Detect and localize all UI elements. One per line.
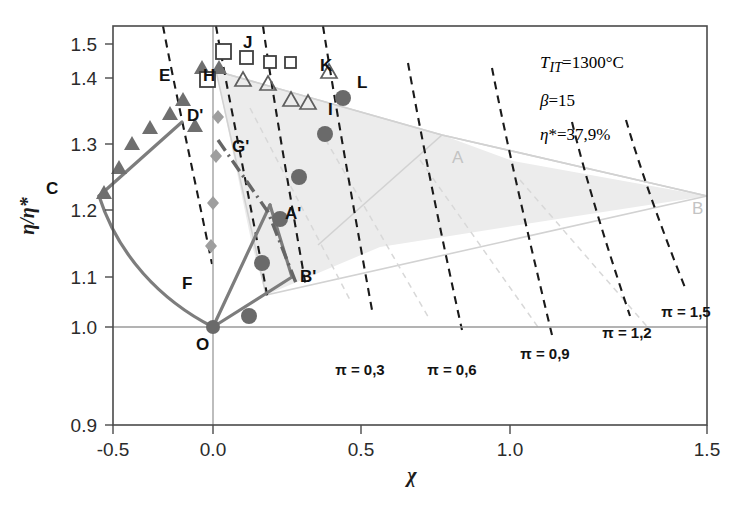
ytick-label: 1.0 (71, 317, 97, 338)
label-A-prime: A' (285, 204, 301, 223)
efficiency-chart-figure: 0.9 1.0 1.1 1.2 1.3 1.4 1.5 -0.5 0.0 0.5… (0, 0, 742, 508)
label-I: I (328, 100, 333, 119)
xtick-label: -0.5 (97, 439, 130, 460)
marker-circle-filled (291, 169, 307, 185)
parameter-annotations: TIT=1300°C β=15 η*=37,9% (540, 46, 624, 152)
label-F: F (182, 274, 192, 293)
label-J: J (243, 33, 252, 52)
y-axis-title: η/η* (16, 196, 39, 235)
xtick-label: 0.5 (348, 439, 374, 460)
label-K: K (320, 56, 333, 75)
annotation-turbine-inlet-temperature: TIT=1300°C (540, 46, 624, 84)
pi-label: π = 1,5 (661, 303, 710, 320)
ytick-label: 1.4 (71, 68, 98, 89)
marker-square-open (240, 51, 253, 64)
ytick-label: 1.1 (71, 267, 97, 288)
label-B-prime: B' (300, 267, 316, 286)
label-C: C (46, 179, 58, 198)
ytick-label: 0.9 (71, 415, 97, 436)
label-D-prime: D' (187, 106, 203, 125)
label-B: B (692, 199, 703, 218)
label-H: H (203, 66, 215, 85)
ytick-label: 1.5 (71, 34, 97, 55)
pi-label: π = 0,3 (335, 361, 384, 378)
marker-circle-filled (317, 126, 333, 142)
xtick-label: 1.5 (694, 439, 720, 460)
ytick-label: 1.3 (71, 134, 97, 155)
pi-label: π = 0,6 (427, 361, 476, 378)
label-O: O (196, 335, 209, 354)
pi-label: π = 0,9 (520, 345, 569, 362)
annotation-pressure-ratio: β=15 (540, 84, 624, 118)
marker-origin-O (206, 320, 220, 334)
chart-svg: 0.9 1.0 1.1 1.2 1.3 1.4 1.5 -0.5 0.0 0.5… (0, 0, 742, 508)
marker-circle-filled (241, 308, 257, 324)
marker-circle-filled (254, 255, 270, 271)
xtick-label: 1.0 (497, 439, 523, 460)
marker-square-open (264, 56, 276, 68)
annotation-reference-efficiency: η*=37,9% (540, 118, 624, 152)
pi-label: π = 1,2 (602, 324, 651, 341)
figure-background (0, 0, 742, 508)
marker-square-open (285, 57, 296, 68)
label-A: A (452, 148, 464, 167)
marker-circle-filled (335, 90, 351, 106)
label-L: L (357, 73, 367, 92)
ytick-label: 1.2 (71, 200, 97, 221)
label-G-prime: G' (232, 137, 249, 156)
label-E: E (159, 66, 170, 85)
marker-square-open (216, 44, 231, 59)
xtick-label: 0.0 (200, 439, 226, 460)
